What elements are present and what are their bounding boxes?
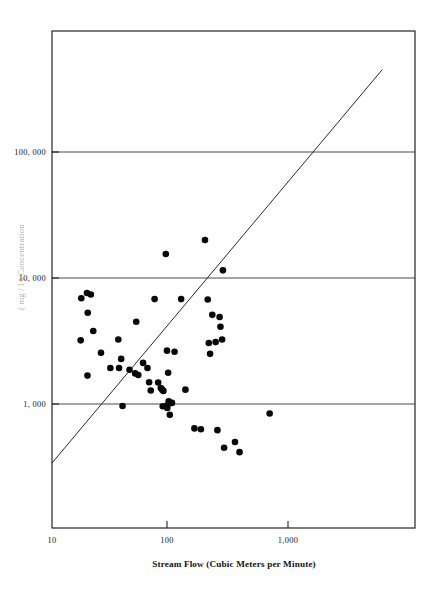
y-tick-label-100000: 100, 000 [14, 148, 46, 157]
data-point [178, 296, 185, 303]
data-point [98, 349, 105, 356]
data-point [202, 237, 209, 244]
data-point [191, 425, 198, 432]
axis-frame [52, 31, 415, 528]
data-point [78, 295, 85, 302]
y-tick-label-1000: 1, 000 [23, 400, 46, 409]
data-point [118, 356, 125, 363]
data-point [147, 387, 154, 394]
data-point [219, 336, 226, 343]
scatter-plot-figure: ( mg / l ) Concentration 100, 000 10, 00… [0, 0, 432, 595]
data-point [204, 296, 211, 303]
data-point [119, 403, 126, 410]
data-point [164, 347, 171, 354]
data-point [77, 337, 84, 344]
data-point [90, 328, 97, 335]
data-point [135, 372, 142, 379]
data-point [160, 388, 167, 395]
data-point [84, 372, 91, 379]
data-point [216, 314, 223, 321]
data-point [115, 336, 122, 343]
data-point [209, 312, 216, 319]
data-point [84, 309, 91, 316]
data-point [232, 439, 239, 446]
data-point [214, 427, 221, 434]
x-tick-label-100: 100 [160, 536, 173, 545]
data-point [169, 400, 176, 407]
data-point [217, 323, 224, 330]
data-point [163, 251, 170, 258]
data-point [182, 386, 189, 393]
data-point [165, 369, 172, 376]
data-point [116, 365, 123, 372]
data-point [205, 340, 212, 347]
gridlines [52, 152, 415, 404]
data-point [266, 410, 273, 417]
data-point [144, 365, 151, 372]
data-point [207, 351, 214, 358]
data-point [126, 366, 133, 373]
data-point [221, 444, 228, 451]
data-point [198, 426, 205, 433]
data-point [164, 405, 171, 412]
data-points-layer [77, 237, 273, 456]
data-point [151, 296, 158, 303]
data-point [220, 267, 227, 274]
x-tick-label-10: 10 [48, 536, 57, 545]
data-point [236, 449, 243, 456]
data-point [107, 365, 114, 372]
data-point [171, 348, 178, 355]
y-axis-ticks [52, 152, 59, 404]
data-point [88, 291, 95, 298]
plot-canvas: 100, 000 10, 000 1, 000 10 100 1,000 Str… [0, 0, 432, 595]
x-axis-ticks [167, 521, 288, 528]
data-point [155, 379, 162, 386]
x-axis-title: Stream Flow (Cubic Meters per Minute) [152, 559, 316, 569]
y-tick-label-10000: 10, 000 [19, 274, 46, 283]
data-point [167, 412, 174, 419]
x-tick-label-1000: 1,000 [278, 536, 298, 545]
data-point [133, 318, 140, 325]
data-point [146, 379, 153, 386]
data-point [140, 360, 147, 367]
data-point [212, 339, 219, 346]
